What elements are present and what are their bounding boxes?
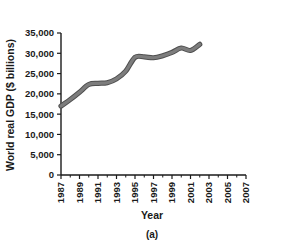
gdp-line-chart: 05,00010,00015,00020,00025,00030,00035,0… <box>0 0 300 247</box>
x-tick-label: 1989 <box>74 182 85 203</box>
x-tick-label: 2003 <box>203 182 214 203</box>
x-axis-title: Year <box>141 209 163 221</box>
y-axis-title: World real GDP ($ billions) <box>4 39 16 171</box>
x-tick-label: 2005 <box>222 181 233 203</box>
y-tick-label: 20,000 <box>25 88 54 99</box>
x-tick-label: 2007 <box>240 182 251 203</box>
y-tick-label: 15,000 <box>25 109 54 120</box>
x-tick-label: 1995 <box>129 181 140 203</box>
y-tick-label: 25,000 <box>25 68 54 79</box>
y-tick-label: 10,000 <box>25 129 54 140</box>
figure-panel: 05,00010,00015,00020,00025,00030,00035,0… <box>0 0 300 247</box>
x-tick-label: 2001 <box>185 181 196 203</box>
x-tick-label: 1999 <box>166 182 177 203</box>
x-tick-label: 1993 <box>111 182 122 203</box>
y-tick-label: 0 <box>49 169 54 180</box>
x-tick-label: 1997 <box>148 182 159 203</box>
x-tick-label: 1991 <box>92 181 103 203</box>
y-tick-label: 35,000 <box>25 27 54 38</box>
y-tick-label: 30,000 <box>25 48 54 59</box>
x-tick-label-group: 1987198919911993199519971999200120032005… <box>55 181 251 203</box>
y-tick-label: 5,000 <box>30 149 54 160</box>
x-tick-label: 1987 <box>55 182 66 203</box>
figure-caption: (a) <box>146 229 158 240</box>
